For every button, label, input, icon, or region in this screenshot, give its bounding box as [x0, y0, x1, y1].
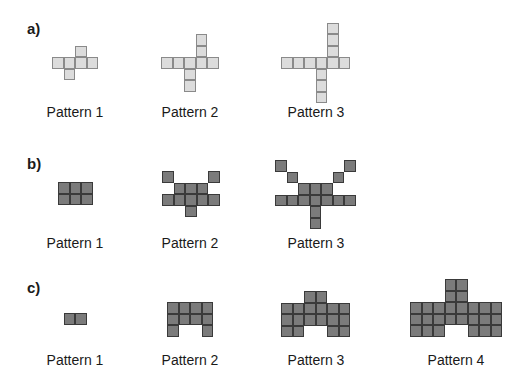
square-tile: [208, 194, 220, 206]
square-tile: [174, 183, 186, 195]
square-tile: [433, 325, 445, 337]
square-tile: [202, 314, 214, 326]
square-tile: [298, 183, 310, 195]
square-tile: [185, 194, 197, 206]
square-tile: [445, 314, 457, 326]
square-tile: [479, 314, 491, 326]
square-tile: [179, 314, 191, 326]
square-tile: [293, 303, 305, 315]
square-tile: [196, 57, 208, 69]
square-tile: [298, 195, 310, 207]
square-tile: [316, 92, 328, 104]
square-tile: [207, 57, 219, 69]
square-tile: [310, 206, 322, 218]
square-tile: [327, 23, 339, 35]
square-tile: [316, 69, 328, 81]
square-tile: [190, 314, 202, 326]
square-tile: [275, 195, 287, 207]
square-tile: [184, 69, 196, 81]
section-label-b: b): [27, 155, 41, 172]
square-tile: [468, 325, 480, 337]
caption-b2: Pattern 2: [162, 235, 219, 251]
square-tile: [422, 302, 434, 314]
square-tile: [197, 183, 209, 195]
square-tile: [327, 326, 339, 338]
square-tile: [167, 302, 179, 314]
square-tile: [339, 314, 351, 326]
square-tile: [456, 291, 468, 303]
square-tile: [327, 57, 339, 69]
square-tile: [327, 303, 339, 315]
caption-a2: Pattern 2: [162, 104, 219, 120]
caption-c1: Pattern 1: [47, 352, 104, 368]
square-tile: [491, 302, 503, 314]
square-tile: [410, 314, 422, 326]
square-tile: [196, 46, 208, 58]
square-tile: [433, 302, 445, 314]
square-tile: [339, 303, 351, 315]
square-tile: [321, 195, 333, 207]
square-tile: [185, 206, 197, 218]
square-tile: [344, 195, 356, 207]
square-tile: [52, 57, 64, 69]
square-tile: [70, 194, 82, 206]
square-tile: [281, 326, 293, 338]
square-tile: [185, 183, 197, 195]
square-tile: [64, 57, 76, 69]
square-tile: [310, 195, 322, 207]
square-tile: [293, 314, 305, 326]
section-label-a: a): [27, 20, 40, 37]
square-tile: [491, 325, 503, 337]
square-tile: [293, 326, 305, 338]
square-tile: [304, 57, 316, 69]
square-tile: [422, 325, 434, 337]
square-tile: [167, 325, 179, 337]
square-tile: [422, 314, 434, 326]
square-tile: [491, 314, 503, 326]
square-tile: [327, 46, 339, 58]
square-tile: [344, 160, 356, 172]
square-tile: [456, 302, 468, 314]
caption-a1: Pattern 1: [47, 104, 104, 120]
square-tile: [81, 194, 93, 206]
square-tile: [190, 302, 202, 314]
square-tile: [162, 194, 174, 206]
square-tile: [445, 279, 457, 291]
square-tile: [281, 314, 293, 326]
square-tile: [58, 182, 70, 194]
square-tile: [162, 171, 174, 183]
square-tile: [456, 279, 468, 291]
square-tile: [179, 302, 191, 314]
square-tile: [316, 314, 328, 326]
square-tile: [468, 302, 480, 314]
square-tile: [184, 57, 196, 69]
square-tile: [479, 302, 491, 314]
square-tile: [87, 57, 99, 69]
square-tile: [293, 57, 305, 69]
square-tile: [410, 325, 422, 337]
square-tile: [70, 182, 82, 194]
square-tile: [202, 302, 214, 314]
square-tile: [75, 46, 87, 58]
square-tile: [445, 291, 457, 303]
square-tile: [81, 182, 93, 194]
square-tile: [316, 303, 328, 315]
square-tile: [333, 195, 345, 207]
caption-c3: Pattern 3: [288, 352, 345, 368]
square-tile: [64, 313, 76, 325]
square-tile: [321, 183, 333, 195]
caption-b3: Pattern 3: [288, 235, 345, 251]
square-tile: [281, 303, 293, 315]
square-tile: [304, 291, 316, 303]
square-tile: [410, 302, 422, 314]
square-tile: [287, 172, 299, 184]
square-tile: [316, 80, 328, 92]
caption-b1: Pattern 1: [47, 235, 104, 251]
square-tile: [202, 325, 214, 337]
caption-c2: Pattern 2: [162, 352, 219, 368]
square-tile: [456, 314, 468, 326]
square-tile: [316, 291, 328, 303]
square-tile: [75, 57, 87, 69]
square-tile: [174, 194, 186, 206]
square-tile: [316, 57, 328, 69]
